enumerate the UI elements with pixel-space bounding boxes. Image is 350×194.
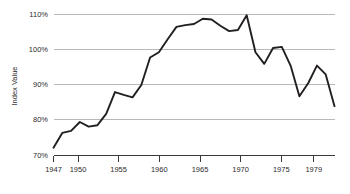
x-tick-label-1975: 1975 [273, 165, 290, 174]
line-chart: 1947 1950 1955 1960 1965 1970 1975 1979 … [0, 0, 350, 194]
y-tick-label-110: 110% [29, 10, 48, 19]
data-series-line [54, 15, 335, 148]
x-tick-label-1955: 1955 [110, 165, 127, 174]
x-tick-label-1950: 1950 [70, 165, 87, 174]
x-tick-label-1965: 1965 [192, 165, 209, 174]
x-tick-labels: 1947 1950 1955 1960 1965 1970 1975 1979 [45, 165, 322, 174]
x-tick-label-1970: 1970 [232, 165, 249, 174]
y-tick-labels: 110% 100% 90% 80% 70% [29, 10, 49, 160]
y-axis-title: Index Value [10, 66, 19, 105]
x-axis [54, 156, 335, 162]
x-tick-label-1960: 1960 [151, 165, 168, 174]
gridlines [54, 15, 335, 120]
chart-container: 1947 1950 1955 1960 1965 1970 1975 1979 … [0, 0, 350, 194]
y-tick-label-90: 90% [33, 80, 48, 89]
y-tick-label-80: 80% [33, 115, 48, 124]
y-tick-label-100: 100% [29, 45, 49, 54]
x-tick-label-1979: 1979 [305, 165, 322, 174]
y-tick-label-70: 70% [33, 151, 48, 160]
x-tick-label-1947: 1947 [45, 165, 62, 174]
